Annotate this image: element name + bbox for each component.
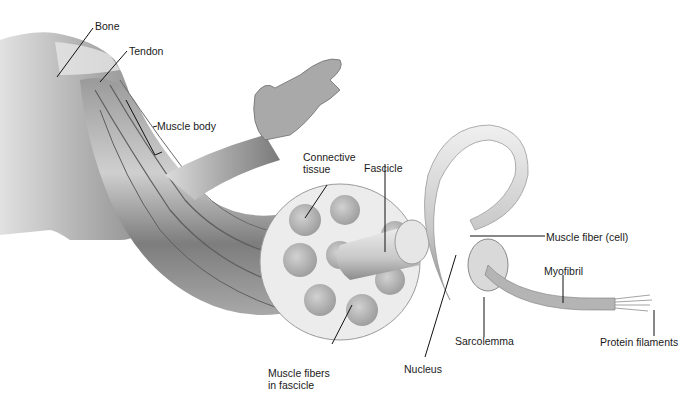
label-connective-tissue-line2: tissue [303, 163, 330, 175]
label-sarcolemma: Sarcolemma [455, 335, 514, 347]
diagram-illustration [0, 0, 696, 406]
label-muscle-fiber-cell: Muscle fiber (cell) [546, 231, 628, 243]
label-muscle-fibers-in-fascicle-line2: in fascicle [268, 379, 314, 391]
label-protein-filaments: Protein filaments [600, 336, 678, 348]
muscle-anatomy-diagram: Bone Tendon Muscle body Connective tissu… [0, 0, 696, 406]
label-bone: Bone [95, 20, 120, 32]
label-muscle-body: Muscle body [157, 120, 216, 132]
label-tendon: Tendon [129, 45, 163, 57]
label-nucleus: Nucleus [404, 363, 442, 375]
muscle-fiber-illustration [424, 125, 528, 300]
label-muscle-fibers-in-fascicle-line1: Muscle fibers [268, 367, 330, 379]
label-myofibril: Myofibril [544, 265, 583, 277]
label-fascicle: Fascicle [364, 162, 403, 174]
label-connective-tissue-line1: Connective [303, 151, 356, 163]
